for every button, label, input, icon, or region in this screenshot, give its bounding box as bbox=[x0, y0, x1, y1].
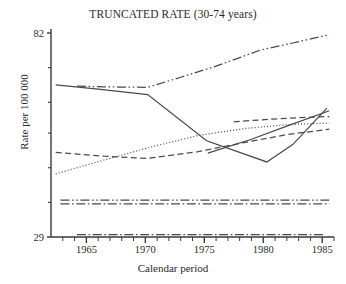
data-lines bbox=[56, 35, 330, 235]
axes bbox=[47, 29, 334, 243]
chart-figure: TRUNCATED RATE (30-74 years) Rate per 10… bbox=[0, 0, 346, 284]
series-1-rising-dashdotdot bbox=[77, 35, 329, 88]
series-2-declining-then-rising-solid bbox=[56, 85, 327, 162]
plot-area bbox=[0, 0, 346, 284]
series-3-dotted-rising bbox=[56, 123, 330, 174]
series-4-dashed-lower bbox=[56, 129, 330, 158]
